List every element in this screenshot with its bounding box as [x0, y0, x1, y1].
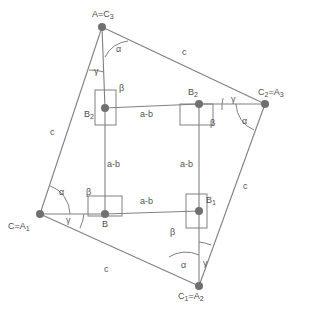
side-label-c-bottom: c — [104, 265, 109, 274]
point-label-B: B — [102, 220, 108, 229]
point-dot-B2L — [101, 104, 109, 112]
angle-label-alpha-C1: α — [181, 261, 186, 270]
segment-label-ab-right: a-b — [180, 160, 193, 169]
vertex-label-C: C=A1 — [8, 222, 30, 231]
segment-label-ab-bottom: a-b — [140, 197, 153, 206]
outer-quadrilateral — [40, 27, 265, 286]
angle-label-beta-B2-left: β — [119, 84, 124, 93]
inner-bottom — [105, 211, 199, 214]
right-angle-box-B2R — [180, 104, 213, 125]
side-label-c-left: c — [50, 128, 55, 137]
arc-C-gamma — [80, 214, 84, 228]
point-dot-B1 — [195, 207, 203, 215]
vertex-dot-C1 — [195, 282, 203, 290]
vertex-dot-C2 — [261, 100, 269, 108]
point-dot-B2R — [195, 100, 203, 108]
vertex-dot-C — [36, 210, 44, 218]
vertex-label-A: A=C3 — [92, 10, 114, 19]
point-label-B2-right: B2 — [188, 88, 198, 97]
side-C-A — [40, 27, 102, 214]
angle-label-beta-B1: β — [170, 228, 175, 237]
segment-label-ab-left: a-b — [107, 160, 120, 169]
arc-C1-alpha — [169, 252, 199, 257]
vertex-dot-A — [98, 23, 106, 31]
vertex-dots — [36, 23, 269, 290]
side-A-C2 — [102, 27, 265, 104]
angle-label-gamma-C1: γ — [203, 259, 208, 268]
point-dot-B — [101, 210, 109, 218]
angle-label-gamma-C2: γ — [231, 95, 236, 104]
vertex-label-C2: C2=A3 — [258, 88, 284, 97]
side-label-c-right: c — [243, 182, 248, 191]
side-label-c-top: c — [182, 48, 187, 57]
connector-lines — [40, 27, 265, 286]
angle-label-beta-B: β — [86, 188, 91, 197]
side-C1-C — [40, 214, 199, 286]
angle-label-beta-B2-right: β — [210, 119, 215, 128]
geometry-figure: A=C3 C2=A3 C1=A2 C=A1 B2 B2 B1 B c c c c… — [0, 0, 313, 320]
angle-label-alpha-C2: α — [242, 117, 247, 126]
angle-label-alpha-C: α — [59, 188, 64, 197]
point-label-B1: B1 — [206, 196, 216, 205]
connector-A-B2L — [102, 27, 105, 108]
arc-C1-gamma — [199, 242, 211, 245]
vertex-label-C1: C1=A2 — [178, 292, 204, 301]
angle-label-gamma-A: γ — [94, 67, 99, 76]
figure-canvas — [0, 0, 313, 320]
angle-label-gamma-C: γ — [66, 216, 71, 225]
point-label-B2-left: B2 — [84, 110, 94, 119]
segment-label-ab-top: a-b — [140, 110, 153, 119]
inner-top — [105, 104, 199, 108]
angle-arcs — [50, 41, 254, 257]
angle-label-alpha-A: α — [116, 45, 121, 54]
